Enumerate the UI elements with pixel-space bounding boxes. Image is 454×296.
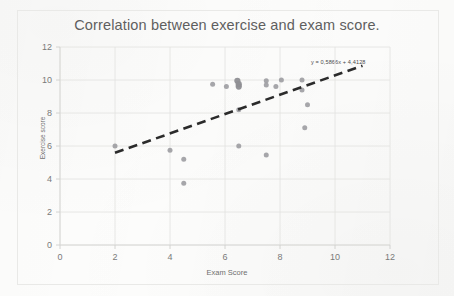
y-tick-label: 10 [26, 75, 52, 85]
chart-screenshot: Correlation between exercise and exam sc… [0, 0, 454, 296]
gridlines-group [60, 47, 390, 245]
x-tick-label: 8 [267, 252, 293, 262]
data-point-marker [113, 144, 118, 149]
scatter-plot-canvas [60, 47, 390, 245]
chart-title: Correlation between exercise and exam sc… [0, 17, 454, 33]
y-tick-label: 12 [26, 42, 52, 52]
y-tick-label: 0 [26, 240, 52, 250]
data-point-marker [300, 78, 305, 83]
x-tick-label: 6 [212, 252, 238, 262]
data-point-marker [224, 84, 229, 89]
x-tick-label: 4 [157, 252, 183, 262]
x-tick-label: 10 [322, 252, 348, 262]
x-tick-label: 2 [102, 252, 128, 262]
data-point-marker [273, 84, 278, 89]
y-tick-label: 4 [26, 174, 52, 184]
data-point-marker [236, 144, 241, 149]
data-point-marker [181, 157, 186, 162]
data-point-marker [264, 82, 269, 87]
x-axis-title: Exam Score [0, 268, 454, 277]
data-point-marker [302, 125, 307, 130]
data-point-marker [181, 181, 186, 186]
data-point-marker [264, 153, 269, 158]
y-tick-label: 8 [26, 108, 52, 118]
y-tick-label: 6 [26, 141, 52, 151]
x-tick-label: 0 [47, 252, 73, 262]
x-tick-label: 12 [377, 252, 403, 262]
data-point-marker [210, 82, 215, 87]
axis-lines-group [56, 47, 390, 249]
data-point-marker [168, 148, 173, 153]
data-point-marker [305, 102, 310, 107]
y-tick-label: 2 [26, 207, 52, 217]
data-point-marker [279, 78, 284, 83]
y-axis-title: Exercise score [39, 117, 46, 160]
plot-area: 024681012 024681012 [60, 47, 390, 245]
data-point-marker [236, 84, 242, 90]
